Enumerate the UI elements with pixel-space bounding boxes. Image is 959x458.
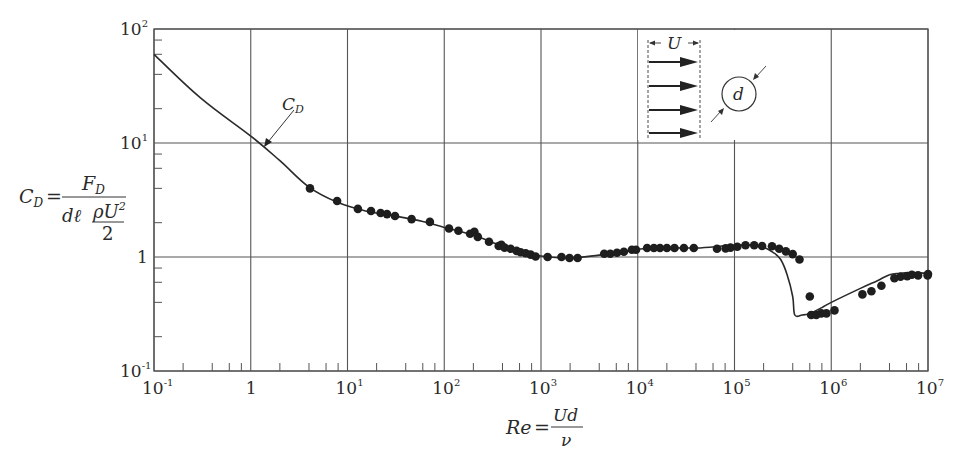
data-point — [750, 241, 759, 250]
data-point — [383, 210, 392, 219]
svg-text:CD: CD — [282, 94, 304, 116]
ylabel-dl: dℓ — [62, 205, 82, 226]
ylabel-den-2: 2 — [102, 223, 113, 244]
xlabel-re: Re — [505, 416, 532, 438]
x-tick-label: 107 — [916, 377, 944, 398]
data-point — [914, 271, 923, 280]
data-point — [306, 184, 315, 193]
svg-text:FD: FD — [81, 172, 105, 197]
data-point — [713, 245, 722, 254]
data-point — [454, 226, 463, 235]
x-tick-label: 103 — [529, 377, 557, 398]
annotation-main: C — [282, 94, 295, 114]
x-tick-label: 105 — [723, 377, 751, 398]
data-point — [333, 197, 342, 206]
inset-diameter-label: d — [733, 84, 744, 104]
data-point — [531, 252, 540, 261]
data-point — [445, 224, 454, 233]
data-point — [670, 244, 679, 253]
data-point — [573, 254, 582, 263]
annotation-sub: D — [294, 103, 304, 116]
xlabel-nu: ν — [561, 430, 571, 450]
ylabel-equals: = — [46, 185, 62, 207]
inset-flow-label: U — [667, 33, 682, 53]
data-point — [788, 250, 797, 259]
data-point — [557, 253, 566, 262]
x-tick-label: 104 — [626, 377, 654, 398]
data-point — [690, 244, 699, 253]
ylabel-sup-2: 2 — [118, 200, 126, 213]
x-tick-label: 10-1 — [142, 377, 173, 398]
data-point — [877, 281, 886, 290]
data-point — [867, 287, 876, 296]
y-tick-label: 101 — [120, 132, 148, 153]
y-tick-label: 1 — [137, 247, 148, 267]
drag-coefficient-chart: 10-11101102103104105106107 10-11101102 C… — [0, 0, 959, 458]
xlabel-ud: Ud — [553, 405, 578, 425]
svg-text:CD: CD — [19, 185, 44, 210]
ylabel-f: F — [81, 172, 96, 194]
ylabel-f-sub: D — [94, 183, 105, 197]
x-axis-tick-labels: 10-11101102103104105106107 — [142, 377, 944, 398]
data-point — [543, 253, 552, 262]
data-point — [474, 233, 483, 242]
data-point — [485, 238, 494, 247]
data-point — [758, 242, 767, 251]
data-point — [822, 309, 831, 318]
x-tick-label: 106 — [819, 377, 847, 398]
data-point — [741, 241, 750, 250]
data-point — [367, 207, 376, 216]
ylabel-c: C — [19, 185, 34, 207]
data-point — [632, 245, 641, 254]
y-tick-label: 102 — [120, 18, 148, 39]
data-point — [663, 244, 672, 253]
data-point — [924, 270, 933, 279]
data-point — [354, 205, 363, 214]
xlabel-equals: = — [534, 416, 550, 438]
ylabel-rho-u: ρU — [92, 201, 120, 222]
data-point — [620, 248, 629, 257]
data-point — [858, 290, 867, 299]
data-point — [680, 244, 689, 253]
data-point — [391, 212, 400, 221]
x-tick-label: 1 — [246, 378, 257, 398]
x-axis-label: Re = Ud ν — [505, 405, 583, 450]
x-tick-label: 102 — [432, 377, 460, 398]
grid-lines — [154, 29, 928, 371]
data-point — [407, 215, 416, 224]
data-point — [806, 292, 815, 301]
data-point — [565, 254, 574, 263]
x-tick-label: 101 — [336, 377, 364, 398]
data-point — [830, 306, 839, 315]
y-axis-label: CD = FD dℓ ρU2 2 — [19, 172, 126, 244]
data-point — [733, 243, 742, 252]
data-point — [795, 255, 804, 264]
minor-ticks — [154, 40, 919, 371]
ylabel-c-sub: D — [33, 196, 44, 210]
svg-text:ρU2: ρU2 — [92, 200, 126, 222]
cd-annotation: CD — [264, 94, 304, 147]
data-point — [426, 218, 435, 227]
